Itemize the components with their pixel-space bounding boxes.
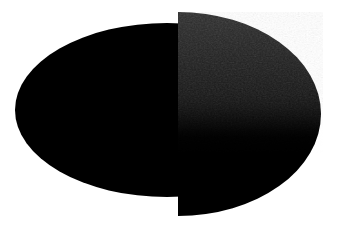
image-canvas [0, 0, 338, 230]
shape-composition [0, 0, 338, 230]
